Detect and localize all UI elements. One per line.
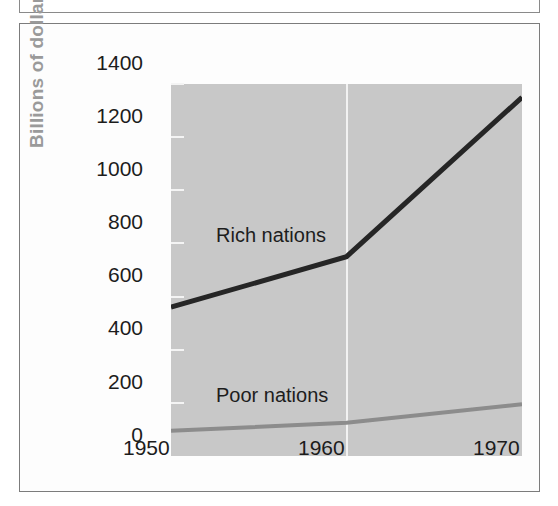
xtick-label-1960: 1960	[298, 437, 345, 458]
ytick-label-400: 400	[108, 317, 143, 338]
line-rich-nations	[171, 97, 522, 307]
ytick-label-600: 600	[108, 264, 143, 285]
xtick-label-1970: 1970	[473, 437, 520, 458]
plot-area: Rich nations Poor nations	[171, 84, 522, 456]
ytick-label-800: 800	[108, 211, 143, 232]
series-label-poor-nations: Poor nations	[216, 385, 328, 405]
xtick-label-1950: 1950	[123, 437, 170, 458]
line-poor-nations	[171, 404, 522, 431]
ytick-label-1000: 1000	[96, 158, 143, 179]
y-axis-tick-labels: 1400 1200 1000 800 600 400 200 0	[55, 0, 143, 506]
series-label-rich-nations: Rich nations	[216, 225, 326, 245]
ytick-label-1200: 1200	[96, 105, 143, 126]
ytick-label-1400: 1400	[96, 52, 143, 73]
ytick-label-200: 200	[108, 371, 143, 392]
y-axis-title: Billions of dollars	[26, 0, 48, 148]
